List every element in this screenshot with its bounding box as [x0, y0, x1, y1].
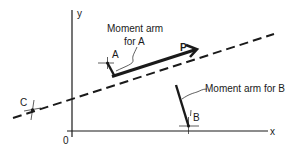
axes: [67, 10, 268, 137]
moment-arm-a-label-line1: Moment arm: [107, 23, 163, 34]
leader-line-b: [182, 89, 207, 99]
moment-arm-b-label: Moment arm for B: [205, 83, 285, 94]
leader-line-a: [116, 47, 137, 71]
point-c-label: C: [20, 97, 27, 108]
point-a-label: A: [112, 49, 119, 60]
y-axis-label: y: [77, 8, 82, 19]
origin-label: 0: [63, 135, 69, 146]
point-b-label: B: [193, 112, 200, 123]
force-label-p: P: [180, 42, 187, 53]
x-axis-label: x: [270, 126, 275, 137]
moment-arm-a-label-line2: for A: [124, 36, 145, 47]
moment-arm-diagram: y x 0 P A Moment arm for A B Moment arm …: [0, 0, 297, 152]
moment-arm-a: [108, 63, 115, 76]
moment-arm-b: [176, 85, 189, 126]
b-tick: [191, 110, 192, 116]
